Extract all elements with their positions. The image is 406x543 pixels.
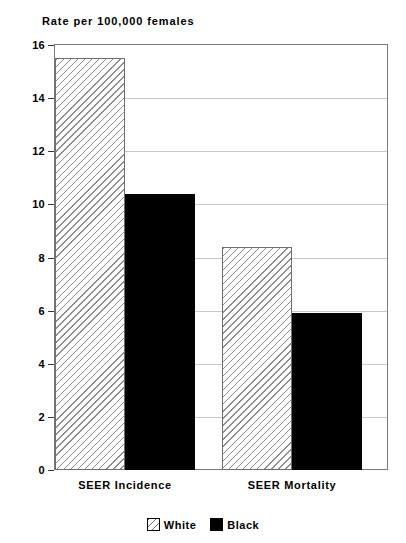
y-axis-tick-label: 4 bbox=[39, 358, 45, 370]
legend-entry-black: Black bbox=[210, 518, 259, 531]
y-axis-tick-label: 10 bbox=[32, 198, 45, 210]
category-label-seer-mortality: SEER Mortality bbox=[248, 479, 337, 491]
legend-entry-white: White bbox=[147, 518, 196, 531]
y-axis-title: Rate per 100,000 females bbox=[42, 15, 194, 27]
y-axis-tick-label: 16 bbox=[32, 39, 45, 51]
y-axis: 0246810121416 bbox=[0, 0, 54, 543]
hatch-swatch-icon bbox=[147, 518, 160, 531]
plot-area bbox=[55, 45, 387, 470]
bar-seer-incidence-white bbox=[55, 58, 125, 470]
y-axis-tick-label: 0 bbox=[39, 464, 45, 476]
legend-label-white: White bbox=[164, 519, 196, 531]
bar-seer-mortality-black bbox=[292, 313, 362, 470]
y-axis-tick-label: 8 bbox=[39, 252, 45, 264]
y-axis-tick-label: 12 bbox=[32, 145, 45, 157]
y-axis-tick-label: 14 bbox=[32, 92, 45, 104]
category-label-seer-incidence: SEER Incidence bbox=[78, 479, 172, 491]
y-axis-tick-label: 6 bbox=[39, 305, 45, 317]
legend-label-black: Black bbox=[227, 519, 259, 531]
y-axis-tick-label: 2 bbox=[39, 411, 45, 423]
chart-legend: White Black bbox=[0, 518, 406, 531]
bar-seer-incidence-black bbox=[125, 194, 195, 470]
y-axis-tick-mark bbox=[48, 470, 54, 471]
bar-seer-mortality-white bbox=[222, 247, 292, 470]
black-swatch-icon bbox=[210, 518, 223, 531]
